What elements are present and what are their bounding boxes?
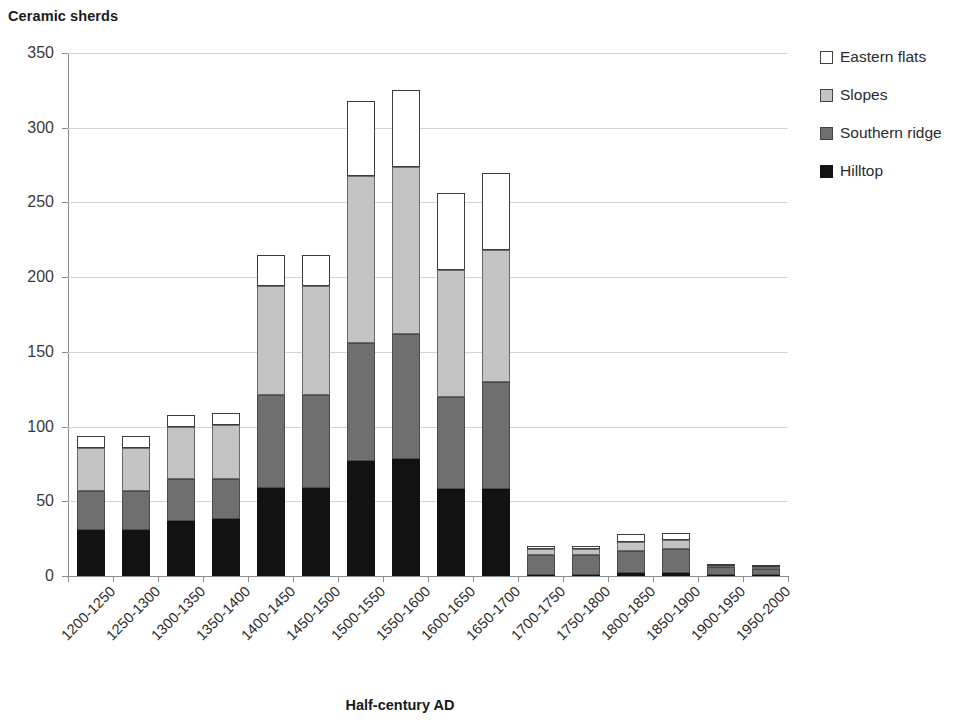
chart-legend: Eastern flatsSlopesSouthern ridgeHilltop [820,38,970,190]
x-axis-tick [518,576,519,582]
x-axis-tick [428,576,429,582]
x-axis-tick [743,576,744,582]
legend-label: Southern ridge [840,124,942,142]
legend-swatch-southern-icon [820,127,833,140]
legend-item[interactable]: Eastern flats [820,38,970,76]
x-axis-tick [158,576,159,582]
legend-label: Slopes [840,86,887,104]
legend-swatch-hilltop-icon [820,165,833,178]
x-axis-tick [113,576,114,582]
legend-item[interactable]: Southern ridge [820,114,970,152]
x-axis-tick [563,576,564,582]
legend-item[interactable]: Slopes [820,76,970,114]
x-axis-tick [788,576,789,582]
x-axis-tick [248,576,249,582]
x-axis-tick [608,576,609,582]
x-axis-tick [473,576,474,582]
x-axis-tick [338,576,339,582]
x-axis-title: Half-century AD [0,697,800,713]
x-axis-tick [698,576,699,582]
legend-item[interactable]: Hilltop [820,152,970,190]
x-axis-tick [383,576,384,582]
x-axis-tick [203,576,204,582]
x-axis-tick [653,576,654,582]
x-axis-tick [293,576,294,582]
x-axis-tick [68,576,69,582]
ceramic-sherds-chart: Ceramic sherds 050100150200250300350 120… [0,0,971,720]
legend-swatch-slopes-icon [820,89,833,102]
legend-swatch-eastern-icon [820,51,833,64]
legend-label: Hilltop [840,162,883,180]
legend-label: Eastern flats [840,48,926,66]
